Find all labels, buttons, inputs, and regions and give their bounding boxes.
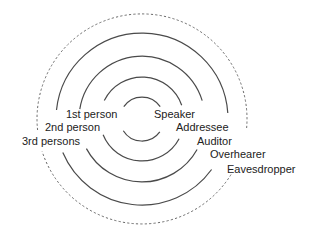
addressee-ring-top-arc — [104, 77, 181, 105]
label-auditor: Auditor — [197, 136, 232, 147]
label-overhearer: Overhearer — [210, 149, 266, 160]
label-1st-person: 1st person — [66, 109, 117, 120]
speaker-ring-top-arc — [124, 97, 160, 107]
addressee-ring-bottom-arc — [103, 135, 179, 161]
label-2nd-person: 2nd person — [45, 122, 100, 133]
label-3rd-persons: 3rd persons — [22, 136, 80, 147]
speaker-ring-bottom-arc — [123, 131, 160, 141]
auditor-ring-top-arc — [80, 56, 202, 109]
auditor-ring-bottom-arc — [86, 149, 197, 182]
eavesdropper-ring-bottom-arc — [42, 151, 231, 224]
label-speaker: Speaker — [154, 109, 195, 120]
label-eavesdropper: Eavesdropper — [227, 164, 296, 175]
label-addressee: Addressee — [176, 122, 229, 133]
